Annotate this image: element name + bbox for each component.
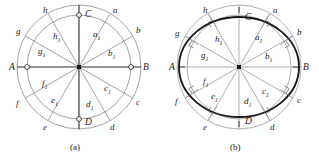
label-c: c	[297, 95, 301, 105]
right-angle-mark-f	[189, 86, 194, 93]
panel-a: A B C D a b c d e f g h a1 b1 c1	[0, 0, 159, 157]
label-b1-sub: 1	[113, 54, 116, 60]
svg-text:d1: d1	[86, 99, 94, 111]
svg-text:f1: f1	[203, 76, 209, 88]
label-f1-sub: 1	[206, 82, 209, 88]
label-d1-sub: 1	[249, 102, 252, 108]
svg-text:c1: c1	[262, 86, 269, 98]
svg-text:b1: b1	[265, 51, 273, 63]
label-d: d	[110, 122, 115, 132]
label-f: f	[16, 98, 20, 108]
label-e1-sub: 1	[55, 101, 58, 107]
label-g1-sub: 1	[206, 56, 209, 62]
right-angle-mark-c	[285, 86, 290, 93]
label-b: b	[297, 27, 302, 37]
panel-b: A B C D a b c d e f g h a1 b1 c1	[160, 0, 319, 157]
center-point	[77, 65, 81, 69]
svg-text:e1: e1	[211, 91, 218, 103]
svg-text:a1: a1	[93, 29, 101, 41]
label-g1-sub: 1	[43, 52, 46, 58]
label-h: h	[203, 5, 208, 15]
label-d: d	[270, 122, 275, 132]
point-marker-A	[25, 65, 30, 70]
label-e: e	[203, 122, 207, 132]
svg-text:g1: g1	[38, 46, 46, 58]
point-marker-C	[77, 13, 82, 18]
label-h1-sub: 1	[58, 37, 61, 43]
label-A: A	[8, 62, 15, 72]
label-A: A	[168, 62, 175, 72]
label-D: D	[84, 117, 92, 127]
label-a: a	[273, 5, 278, 15]
inner-point-labels: a1 b1 c1 d1 e1 f1 g1	[38, 29, 116, 111]
inner-point-labels: a1 b1 c1 d1 e1 f1 g1	[201, 32, 273, 108]
right-angle-mark-g	[189, 41, 194, 48]
label-c1-sub: 1	[108, 89, 111, 95]
label-b: b	[136, 25, 141, 35]
label-B: B	[143, 62, 149, 72]
label-e: e	[43, 122, 47, 132]
label-D: D	[244, 116, 252, 126]
figure-root: A B C D a b c d e f g h a1 b1 c1	[0, 0, 319, 157]
label-h1-sub: 1	[220, 40, 223, 46]
svg-text:f1: f1	[42, 78, 48, 90]
caption-panel-b: (b)	[230, 142, 241, 152]
label-f1-sub: 1	[45, 84, 48, 90]
point-marker-D	[77, 117, 82, 122]
center-point	[237, 65, 241, 69]
point-marker-B	[129, 65, 134, 70]
svg-text:b1: b1	[108, 48, 116, 60]
label-e1-sub: 1	[215, 97, 218, 103]
label-b1-sub: 1	[270, 57, 273, 63]
caption-panel-a: (a)	[70, 142, 80, 152]
svg-text:e1: e1	[51, 95, 58, 107]
label-h: h	[43, 5, 48, 15]
svg-text:a1: a1	[255, 32, 263, 44]
label-a: a	[113, 5, 118, 15]
label-f: f	[175, 96, 179, 106]
svg-text:g1: g1	[201, 50, 209, 62]
label-g: g	[175, 28, 180, 38]
label-B: B	[303, 62, 309, 72]
label-g: g	[16, 26, 21, 36]
label-c: c	[136, 97, 140, 107]
panel-a-diagram: A B C D a b c d e f g h a1 b1 c1	[0, 0, 159, 157]
label-C: C	[245, 12, 252, 22]
label-d1-sub: 1	[91, 105, 94, 111]
label-a1-sub: 1	[98, 35, 101, 41]
label-c1-sub: 1	[266, 92, 269, 98]
label-C: C	[85, 9, 92, 19]
panel-b-diagram: A B C D a b c d e f g h a1 b1 c1	[160, 0, 319, 157]
right-angle-mark-b	[285, 41, 290, 48]
svg-text:d1: d1	[244, 96, 252, 108]
label-a1-sub: 1	[260, 38, 263, 44]
